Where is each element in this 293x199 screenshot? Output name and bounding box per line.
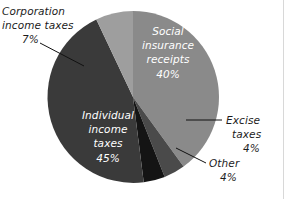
label-corporation-value: 7% — [22, 33, 39, 45]
pie-chart-svg: Corporation income taxes 7% Social insur… — [0, 0, 293, 199]
label-social-line3: receipts — [147, 53, 190, 65]
label-corporation-line2: income taxes — [2, 19, 74, 31]
pie-chart-figure: Corporation income taxes 7% Social insur… — [0, 0, 293, 199]
label-social-line1: Social — [152, 25, 184, 37]
label-social-value: 40% — [156, 68, 180, 80]
label-other-line1: Other — [209, 157, 240, 169]
label-other-value: 4% — [220, 171, 237, 183]
label-individual-line2: income — [88, 123, 127, 135]
label-social-line2: insurance — [142, 39, 194, 51]
label-corporation: Corporation income taxes 7% — [2, 5, 74, 45]
label-individual-line1: Individual — [82, 109, 134, 121]
label-individual-value: 45% — [96, 152, 120, 164]
label-excise-line1: Excise — [226, 114, 260, 126]
label-individual-line3: taxes — [93, 137, 123, 149]
label-excise-line2: taxes — [232, 128, 262, 140]
label-corporation-line1: Corporation — [2, 5, 65, 17]
label-excise: Excise taxes 4% — [226, 114, 262, 154]
label-excise-value: 4% — [243, 142, 260, 154]
label-other: Other 4% — [209, 157, 240, 183]
